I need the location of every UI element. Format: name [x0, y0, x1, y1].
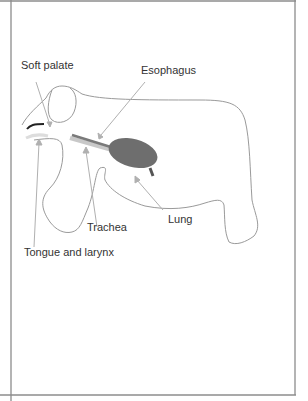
- lung-stem: [150, 168, 153, 176]
- lung-shape: [105, 133, 161, 173]
- tongue-larynx-shape: [26, 135, 48, 138]
- diagram-frame: Soft palate Esophagus Trachea Lung Tongu…: [0, 0, 308, 401]
- label-tongue-larynx: Tongue and larynx: [24, 247, 114, 258]
- label-esophagus: Esophagus: [141, 65, 196, 76]
- dog-ear: [48, 88, 76, 122]
- label-soft-palate: Soft palate: [21, 60, 74, 71]
- label-trachea: Trachea: [87, 222, 127, 233]
- soft-palate-shape: [27, 124, 44, 129]
- label-lung: Lung: [168, 214, 192, 225]
